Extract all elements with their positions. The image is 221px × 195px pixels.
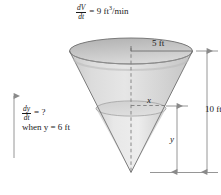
- question-annotation: dy dt = ? when y = 6 ft: [22, 105, 70, 133]
- rate-value: 9 ft: [97, 6, 109, 16]
- rate-of-volume-equation: dV dt = 9 ft3/min: [76, 4, 128, 20]
- dt-denominator: dt: [76, 13, 86, 21]
- question-equals: = ?: [34, 107, 45, 117]
- label-water-radius-x: x: [147, 95, 151, 105]
- label-total-height: 10 ft: [205, 104, 221, 114]
- cone-related-rates-diagram: [0, 0, 221, 195]
- dv-dt-fraction: dV dt: [76, 4, 86, 20]
- equals-sign: =: [89, 6, 94, 16]
- question-condition: when y = 6 ft: [22, 122, 70, 133]
- label-water-height-y: y: [170, 134, 174, 144]
- rate-equation-rhs: = 9 ft3/min: [89, 6, 128, 16]
- dy-dt-fraction: dy dt: [22, 105, 31, 121]
- label-top-radius: 5 ft: [152, 38, 164, 48]
- rate-unit: /min: [112, 6, 129, 16]
- dt-denominator-2: dt: [22, 114, 31, 122]
